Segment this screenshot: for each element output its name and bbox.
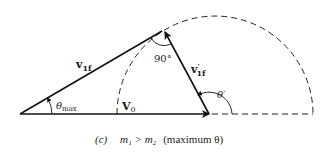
theta-max-arc-icon: [48, 98, 53, 114]
v1f-label: v1f: [75, 58, 92, 73]
figure-caption: (c) m₁ > m₂ (maximum θ): [95, 133, 223, 146]
momentum-vector-diagram: v1f 90° v′1f θmax V0 θ′ (c) m₁ > m₂ (max…: [0, 0, 328, 155]
v0-label: V0: [121, 100, 136, 114]
theta-prime-label: θ′: [217, 89, 226, 100]
right-angle-label: 90°: [154, 53, 172, 64]
dashed-semicircle: [117, 16, 313, 114]
v1f-prime-label: v′1f: [190, 61, 206, 78]
theta-max-label: θmax: [56, 100, 77, 113]
